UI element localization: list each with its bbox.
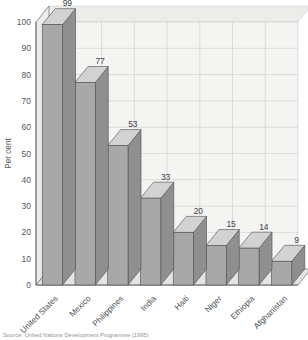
bar-value-label: 99 xyxy=(63,0,73,8)
bar-group xyxy=(42,9,75,285)
bar-front-face xyxy=(239,248,259,285)
bar-front-face xyxy=(271,261,291,285)
bar-value-label: 20 xyxy=(194,206,204,216)
y-axis-title: Per cent xyxy=(4,138,13,169)
bar-value-label: 33 xyxy=(161,172,171,182)
y-axis-tick-label: 90 xyxy=(22,43,32,53)
bar-front-face xyxy=(75,82,95,285)
x-axis-category-label: United States xyxy=(19,294,60,335)
bar-front-face xyxy=(140,198,160,285)
bar-side-face xyxy=(161,182,174,285)
y-axis-tick-label: 40 xyxy=(22,175,32,185)
chart-container: 0102030405060708090100Per cent9141520335… xyxy=(0,0,308,340)
y-axis-tick-label: 30 xyxy=(22,201,32,211)
bar-group xyxy=(75,66,108,285)
y-axis-tick-label: 0 xyxy=(26,280,31,290)
x-axis-category-label: Niger xyxy=(203,294,223,314)
bar-group xyxy=(108,130,141,285)
y-axis-tick-label: 100 xyxy=(17,17,31,27)
bar-side-face xyxy=(128,130,141,285)
bar-side-face xyxy=(63,9,76,285)
x-axis-category-label: Haiti xyxy=(173,294,191,312)
bar-chart-svg: 0102030405060708090100Per cent9141520335… xyxy=(0,0,308,340)
bar-value-label: 15 xyxy=(226,219,236,229)
bar-group xyxy=(173,216,206,285)
bar-front-face xyxy=(108,146,128,285)
y-axis-tick-label: 50 xyxy=(22,149,32,159)
x-axis-category-label: Ethiopia xyxy=(229,294,257,322)
bar-value-label: 53 xyxy=(128,119,138,129)
chart-source-note: Source: United Nations Development Progr… xyxy=(3,332,149,338)
bar-front-face xyxy=(206,246,226,285)
bar-front-face xyxy=(173,232,193,285)
y-axis-tick-label: 70 xyxy=(22,96,32,106)
y-axis-tick-label: 80 xyxy=(22,70,32,80)
bar-group xyxy=(140,182,173,285)
y-axis-tick-label: 20 xyxy=(22,227,32,237)
y-axis-tick-label: 10 xyxy=(22,254,32,264)
bar-value-label: 9 xyxy=(294,235,299,245)
x-axis-category-label: Afghanistan xyxy=(252,294,289,331)
x-axis-category-label: India xyxy=(139,294,158,313)
y-axis-tick-label: 60 xyxy=(22,122,32,132)
bar-value-label: 77 xyxy=(95,56,105,66)
x-axis-category-label: Philippines xyxy=(91,294,125,328)
bar-side-face xyxy=(95,66,108,285)
x-axis-category-label: Mexico xyxy=(68,294,93,319)
plot-top-wall xyxy=(36,6,308,22)
bar-front-face xyxy=(42,25,62,285)
bar-value-label: 14 xyxy=(259,222,269,232)
